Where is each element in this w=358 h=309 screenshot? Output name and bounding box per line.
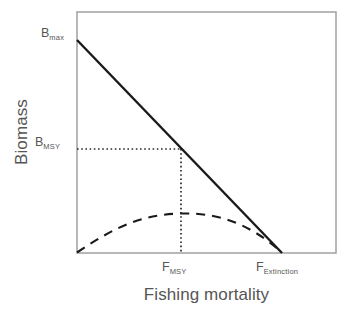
x-axis-title: Fishing mortality: [77, 285, 336, 305]
label-f-extinction-base: F: [256, 260, 264, 274]
equilibrium-yield-curve: [77, 213, 282, 252]
label-f-extinction-sub: Extinction: [264, 267, 299, 276]
label-b-max-sub: max: [49, 33, 64, 42]
fishery-equilibrium-chart: Biomass Fishing mortality Bmax BMSY FMSY…: [0, 0, 358, 309]
label-b-msy: BMSY: [35, 136, 60, 149]
label-f-msy: FMSY: [162, 261, 187, 274]
y-axis-title: Biomass: [12, 67, 32, 197]
equilibrium-biomass-line: [77, 40, 282, 253]
plot-frame: [77, 12, 336, 253]
label-f-extinction: FExtinction: [256, 261, 298, 274]
label-f-msy-sub: MSY: [170, 267, 187, 276]
label-b-max: Bmax: [41, 27, 64, 40]
label-b-msy-sub: MSY: [43, 142, 60, 151]
label-f-msy-base: F: [162, 260, 170, 274]
